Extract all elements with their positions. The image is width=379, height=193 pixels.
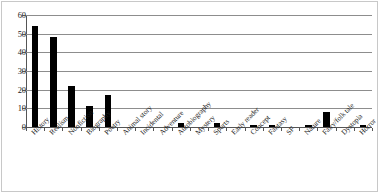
gridline-40	[26, 52, 372, 53]
gridline-30	[26, 71, 372, 72]
bar	[32, 26, 39, 127]
bar	[50, 37, 57, 127]
gridline-60	[26, 15, 372, 16]
gridline-50	[26, 34, 372, 35]
x-axis-labels: HistoryRealismNonfictionBiographyPoetryA…	[0, 131, 379, 193]
bar-chart-figure: 0102030405060 HistoryRealismNonfictionBi…	[0, 0, 379, 193]
gridline-20	[26, 90, 372, 91]
